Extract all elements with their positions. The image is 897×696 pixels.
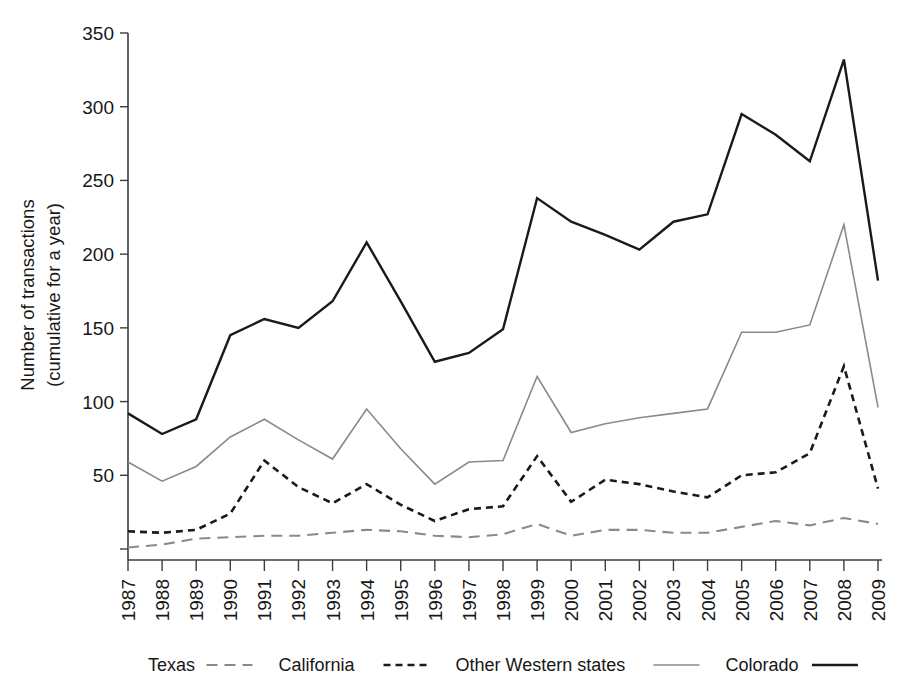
x-tick-label-1994: 1994 <box>357 579 378 622</box>
legend-label-colorado: Colorado <box>726 655 799 675</box>
legend-label-other-western-states: Other Western states <box>456 655 626 675</box>
x-tick-label-1999: 1999 <box>527 579 548 621</box>
legend-label-texas: Texas <box>148 655 195 675</box>
x-tick-label-1987: 1987 <box>118 579 139 621</box>
series-line-colorado <box>128 60 878 434</box>
x-tick-label-1988: 1988 <box>152 579 173 621</box>
x-tick-label-2002: 2002 <box>629 579 650 621</box>
x-tick-label-2009: 2009 <box>868 579 889 621</box>
series-line-texas <box>128 518 878 547</box>
y-tick-label-250: 250 <box>82 170 114 191</box>
x-tick-label-2000: 2000 <box>561 579 582 621</box>
x-tick-label-1996: 1996 <box>425 579 446 621</box>
x-tick-label-2005: 2005 <box>732 579 753 621</box>
x-tick-label-1993: 1993 <box>323 579 344 621</box>
x-tick-label-2007: 2007 <box>800 579 821 621</box>
line-chart-figure: 5010015020025030035019871988198919901991… <box>0 0 897 696</box>
y-tick-label-100: 100 <box>82 392 114 413</box>
y-tick-label-50: 50 <box>93 465 114 486</box>
y-axis-title: Number of transactions <box>17 199 38 390</box>
y-tick-label-350: 350 <box>82 23 114 44</box>
x-tick-label-1990: 1990 <box>220 579 241 621</box>
x-tick-label-1997: 1997 <box>459 579 480 621</box>
x-tick-label-2006: 2006 <box>766 579 787 621</box>
x-tick-label-1998: 1998 <box>493 579 514 621</box>
series-line-california <box>128 366 878 533</box>
x-tick-label-1995: 1995 <box>391 579 412 621</box>
x-tick-label-2004: 2004 <box>698 579 719 622</box>
y-tick-label-200: 200 <box>82 244 114 265</box>
y-tick-label-150: 150 <box>82 318 114 339</box>
y-tick-label-300: 300 <box>82 97 114 118</box>
x-tick-label-2008: 2008 <box>834 579 855 621</box>
x-tick-label-1992: 1992 <box>288 579 309 621</box>
legend-label-california: California <box>279 655 356 675</box>
y-axis-subtitle: (cumulative for a year) <box>43 203 64 387</box>
x-tick-label-2003: 2003 <box>663 579 684 621</box>
x-tick-label-1991: 1991 <box>254 579 275 621</box>
x-tick-label-1989: 1989 <box>186 579 207 621</box>
series-line-other-western-states <box>128 225 878 484</box>
x-tick-label-2001: 2001 <box>595 579 616 621</box>
